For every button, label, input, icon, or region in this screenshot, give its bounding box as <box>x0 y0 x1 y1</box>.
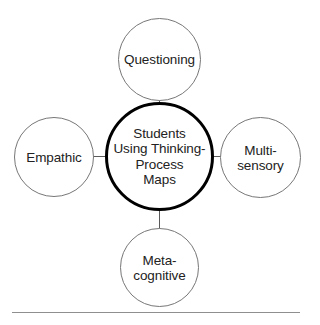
node-meta-cognitive-label: Meta- cognitive <box>129 253 189 283</box>
connector-center-to-meta-cognitive <box>159 210 160 229</box>
node-center-students-using-thinking-process-maps[interactable]: Students Using Thinking- Process Maps <box>105 102 214 211</box>
node-empathic[interactable]: Empathic <box>14 117 94 197</box>
node-multi-sensory-label: Multi- sensory <box>233 143 288 173</box>
node-center-label: Students Using Thinking- Process Maps <box>109 126 209 188</box>
bottom-divider-rule <box>12 312 300 313</box>
node-multi-sensory[interactable]: Multi- sensory <box>220 117 301 198</box>
node-questioning-label: Questioning <box>120 52 199 67</box>
diagram-canvas: Questioning Multi- sensory Meta- cogniti… <box>0 0 320 325</box>
node-questioning[interactable]: Questioning <box>118 18 201 101</box>
node-empathic-label: Empathic <box>22 150 85 165</box>
node-meta-cognitive[interactable]: Meta- cognitive <box>120 228 199 307</box>
